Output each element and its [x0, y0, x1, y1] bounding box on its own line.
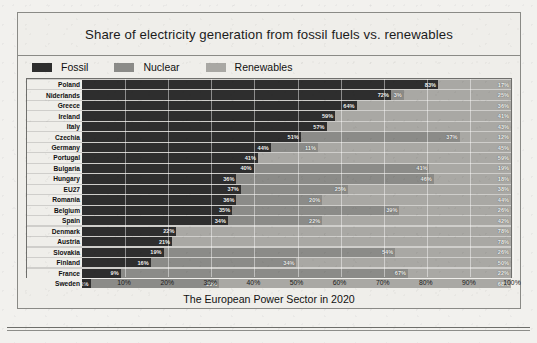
- segment-fossil[interactable]: 36%: [82, 195, 236, 204]
- segment-fossil[interactable]: 51%: [82, 132, 301, 141]
- segment-fossil[interactable]: 34%: [82, 216, 228, 225]
- value-label: 34%: [215, 218, 228, 224]
- bar-row[interactable]: Ireland59%41%: [27, 111, 511, 120]
- segment-nuclear[interactable]: 41%: [254, 164, 430, 173]
- bar-row[interactable]: EU2737%25%38%: [27, 185, 511, 194]
- category-label-ireland: Ireland: [27, 111, 82, 120]
- bar-row[interactable]: Greece64%36%: [27, 101, 511, 110]
- segment-fossil[interactable]: 57%: [82, 122, 327, 131]
- stacked-bar: 9%67%22%: [82, 269, 511, 278]
- category-label-eu27: EU27: [27, 185, 82, 194]
- segment-renewables[interactable]: 43%: [327, 122, 511, 131]
- value-label: 34%: [283, 260, 296, 266]
- bar-row[interactable]: Niderlands72%3%25%: [27, 90, 511, 99]
- value-label: 44%: [498, 197, 511, 203]
- segment-nuclear[interactable]: 54%: [164, 248, 396, 257]
- value-label: 25%: [498, 92, 511, 98]
- segment-fossil[interactable]: 83%: [82, 80, 438, 89]
- segment-renewables[interactable]: 44%: [322, 195, 511, 204]
- segment-fossil[interactable]: 21%: [82, 237, 172, 246]
- category-label-niderlands: Niderlands: [27, 90, 82, 99]
- category-label-greece: Greece: [27, 101, 82, 110]
- segment-renewables[interactable]: 59%: [258, 153, 511, 162]
- bar-row[interactable]: Denmark22%78%: [27, 227, 511, 236]
- segment-fossil[interactable]: 41%: [82, 153, 258, 162]
- segment-fossil[interactable]: 16%: [82, 258, 151, 267]
- segment-nuclear[interactable]: 46%: [236, 174, 433, 183]
- value-label: 59%: [498, 155, 511, 161]
- value-label: 50%: [498, 260, 511, 266]
- segment-renewables[interactable]: 38%: [348, 185, 511, 194]
- segment-nuclear[interactable]: 37%: [301, 132, 460, 141]
- segment-renewables[interactable]: 45%: [318, 143, 511, 152]
- category-label-poland: Poland: [27, 80, 82, 89]
- gridline: [513, 79, 514, 277]
- bar-row[interactable]: Bulgaria40%41%19%: [27, 164, 511, 173]
- bar-row[interactable]: France9%67%22%: [27, 269, 511, 278]
- segment-renewables[interactable]: 25%: [404, 90, 511, 99]
- x-tick-label: 20%: [160, 279, 174, 286]
- legend-item-nuclear[interactable]: Nuclear: [114, 61, 179, 73]
- segment-fossil[interactable]: 64%: [82, 101, 357, 110]
- segment-fossil[interactable]: 35%: [82, 206, 232, 215]
- segment-renewables[interactable]: 26%: [399, 206, 511, 215]
- segment-fossil[interactable]: 44%: [82, 143, 271, 152]
- segment-renewables[interactable]: 42%: [322, 216, 511, 225]
- legend-item-fossil[interactable]: Fossil: [32, 61, 88, 73]
- category-label-germany: Germany: [27, 143, 82, 152]
- chart-title-box: Share of electricity generation from fos…: [18, 13, 520, 56]
- segment-renewables[interactable]: 19%: [429, 164, 511, 173]
- value-label: 36%: [498, 103, 511, 109]
- value-label: 19%: [498, 165, 511, 171]
- legend-label: Fossil: [61, 61, 88, 73]
- segment-renewables[interactable]: 78%: [172, 237, 511, 246]
- segment-fossil[interactable]: 59%: [82, 111, 335, 120]
- segment-nuclear[interactable]: 39%: [232, 206, 399, 215]
- segment-fossil[interactable]: 22%: [82, 227, 176, 236]
- segment-renewables[interactable]: 78%: [176, 227, 511, 236]
- category-label-spain: Spain: [27, 216, 82, 225]
- bar-row[interactable]: Czechia51%37%12%: [27, 132, 511, 141]
- value-label: 83%: [425, 82, 438, 88]
- bar-row[interactable]: Finland16%34%50%: [27, 258, 511, 267]
- category-label-hungary: Hungary: [27, 174, 82, 183]
- segment-nuclear[interactable]: 11%: [271, 143, 318, 152]
- segment-fossil[interactable]: 72%: [82, 90, 391, 99]
- segment-nuclear[interactable]: 34%: [151, 258, 297, 267]
- segment-renewables[interactable]: 36%: [357, 101, 511, 110]
- legend-item-renewables[interactable]: Renewables: [206, 61, 293, 73]
- bar-row[interactable]: Poland83%17%: [27, 80, 511, 89]
- segment-fossil[interactable]: 37%: [82, 185, 241, 194]
- bar-row[interactable]: Hungary36%46%18%: [27, 174, 511, 183]
- segment-nuclear[interactable]: 25%: [241, 185, 348, 194]
- segment-fossil[interactable]: 19%: [82, 248, 164, 257]
- value-label: 17%: [498, 82, 511, 88]
- value-label: 41%: [498, 113, 511, 119]
- segment-fossil[interactable]: 9%: [82, 269, 121, 278]
- bar-row[interactable]: Portugal41%59%: [27, 153, 511, 162]
- segment-renewables[interactable]: 12%: [460, 132, 511, 141]
- segment-fossil[interactable]: 40%: [82, 164, 254, 173]
- segment-renewables[interactable]: 17%: [438, 80, 511, 89]
- bar-row[interactable]: Romania36%20%44%: [27, 195, 511, 204]
- segment-renewables[interactable]: 22%: [408, 269, 511, 278]
- value-label: 41%: [245, 155, 258, 161]
- segment-renewables[interactable]: 50%: [296, 258, 511, 267]
- segment-renewables[interactable]: 41%: [335, 111, 511, 120]
- stacked-bar: 36%20%44%: [82, 195, 511, 204]
- bar-row[interactable]: Slovakia19%54%26%: [27, 248, 511, 257]
- bar-row[interactable]: Belgium35%39%26%: [27, 206, 511, 215]
- bar-row[interactable]: Spain34%22%42%: [27, 216, 511, 225]
- segment-renewables[interactable]: 18%: [434, 174, 511, 183]
- page-divider-top: [7, 327, 530, 328]
- bar-row[interactable]: Germany44%11%45%: [27, 143, 511, 152]
- segment-nuclear[interactable]: 67%: [121, 269, 408, 278]
- segment-fossil[interactable]: 36%: [82, 174, 236, 183]
- bar-row[interactable]: Austria21%78%: [27, 237, 511, 246]
- segment-nuclear[interactable]: 3%: [391, 90, 404, 99]
- bar-row[interactable]: Italy57%43%: [27, 122, 511, 131]
- segment-renewables[interactable]: 26%: [395, 248, 511, 257]
- segment-nuclear[interactable]: 20%: [236, 195, 322, 204]
- value-label: 78%: [498, 228, 511, 234]
- segment-nuclear[interactable]: 22%: [228, 216, 322, 225]
